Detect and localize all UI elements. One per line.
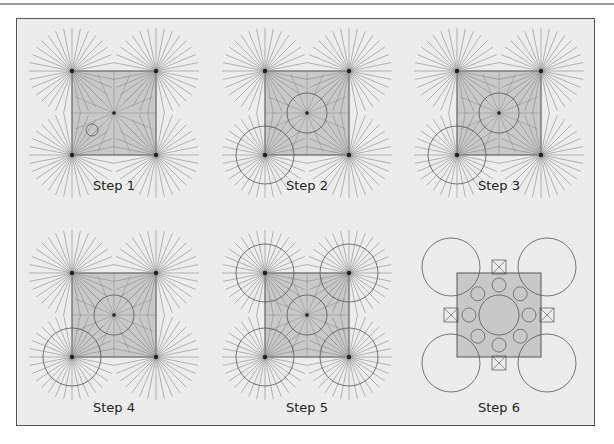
step-label-5: Step 5 xyxy=(247,400,367,415)
panel-step-6 xyxy=(422,238,576,392)
step-label-3: Step 3 xyxy=(439,178,559,193)
step-label-6: Step 6 xyxy=(439,400,559,415)
step-label-4: Step 4 xyxy=(54,400,174,415)
construction-diagram xyxy=(0,0,614,444)
panel-step-4 xyxy=(29,230,199,400)
panel-step-1 xyxy=(29,28,199,198)
step-label-1: Step 1 xyxy=(54,178,174,193)
panel-step-3 xyxy=(414,28,584,198)
step-label-2: Step 2 xyxy=(247,178,367,193)
panel-step-5 xyxy=(222,230,392,400)
panel-step-2 xyxy=(222,28,392,198)
